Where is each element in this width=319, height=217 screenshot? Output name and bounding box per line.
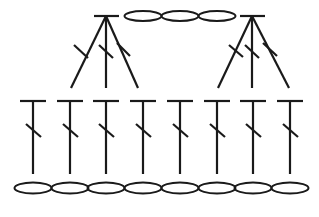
left-3dc-cluster bbox=[71, 16, 138, 88]
chain-stitch-icon bbox=[199, 183, 236, 194]
cluster-stitches bbox=[71, 16, 289, 88]
double-crochet-icon bbox=[277, 101, 303, 174]
yarn-over-slash-icon bbox=[229, 45, 243, 57]
double-crochet-icon bbox=[57, 101, 83, 174]
chain-stitch-icon bbox=[199, 11, 236, 21]
cluster-leg bbox=[71, 16, 106, 88]
chain-stitch-icon bbox=[88, 183, 125, 194]
chain-stitch-icon bbox=[125, 183, 162, 194]
double-crochet-icon bbox=[167, 101, 193, 174]
double-crochet-icon bbox=[204, 101, 230, 174]
double-crochet-icon bbox=[20, 101, 46, 174]
chain-stitch-icon bbox=[162, 183, 199, 194]
top-chain-row bbox=[125, 11, 236, 21]
double-crochet-icon bbox=[240, 101, 266, 174]
right-3dc-cluster bbox=[218, 16, 289, 88]
cluster-leg bbox=[106, 16, 138, 88]
double-crochet-icon bbox=[93, 101, 119, 174]
foundation-chain-row bbox=[15, 183, 309, 194]
double-crochet-icon bbox=[130, 101, 156, 174]
crochet-chart bbox=[0, 0, 319, 217]
chain-stitch-icon bbox=[52, 183, 89, 194]
cluster-leg bbox=[218, 16, 252, 88]
chain-stitch-icon bbox=[272, 183, 309, 194]
chain-stitch-icon bbox=[125, 11, 162, 21]
cluster-leg bbox=[252, 16, 289, 88]
yarn-over-slash-icon bbox=[74, 45, 88, 58]
chain-stitch-icon bbox=[235, 183, 272, 194]
double-crochet-row bbox=[20, 101, 303, 174]
yarn-over-slash-icon bbox=[263, 43, 277, 56]
chain-stitch-icon bbox=[15, 183, 52, 194]
chain-stitch-icon bbox=[162, 11, 199, 21]
